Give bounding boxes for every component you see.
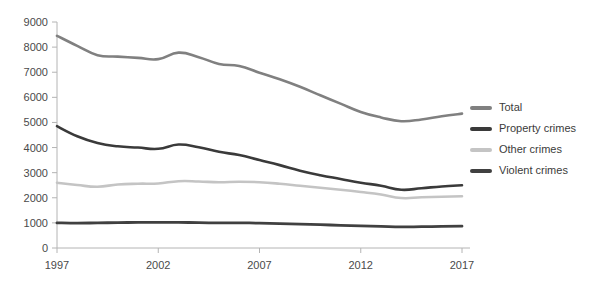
x-axis: 19972002200720122017 — [45, 248, 474, 271]
x-tick-label: 1997 — [45, 259, 69, 271]
legend-swatch-icon — [470, 106, 492, 110]
legend-swatch-icon — [470, 127, 492, 131]
y-tick-label: 6000 — [24, 91, 48, 103]
legend-swatch-icon — [470, 148, 492, 152]
legend-item-label: Property crimes — [499, 123, 576, 134]
legend-swatch-icon — [470, 169, 492, 173]
y-tick-label: 8000 — [24, 41, 48, 53]
x-tick-label: 2007 — [247, 259, 271, 271]
y-tick-label: 0 — [42, 242, 48, 254]
legend-item-other-crimes[interactable]: Other crimes — [470, 139, 596, 160]
legend-item-total[interactable]: Total — [470, 97, 596, 118]
legend-item-label: Other crimes — [499, 144, 562, 155]
y-tick-label: 2000 — [24, 192, 48, 204]
chart-legend: TotalProperty crimesOther crimesViolent … — [470, 97, 596, 181]
x-tick-label: 2012 — [349, 259, 373, 271]
x-tick-label: 2017 — [450, 259, 474, 271]
y-tick-label: 4000 — [24, 142, 48, 154]
y-axis: 0100020003000400050006000700080009000 — [24, 16, 57, 254]
legend-item-violent-crimes[interactable]: Violent crimes — [470, 160, 596, 181]
series-line-property-crimes — [57, 126, 462, 190]
legend-item-label: Violent crimes — [499, 165, 568, 176]
y-tick-label: 5000 — [24, 116, 48, 128]
x-tick-label: 2002 — [146, 259, 170, 271]
y-tick-label: 9000 — [24, 16, 48, 28]
y-tick-label: 3000 — [24, 167, 48, 179]
legend-item-property-crimes[interactable]: Property crimes — [470, 118, 596, 139]
y-tick-label: 1000 — [24, 217, 48, 229]
series-line-total — [57, 36, 462, 121]
series-lines — [57, 36, 462, 227]
line-chart: 0100020003000400050006000700080009000 19… — [0, 0, 596, 288]
legend-item-label: Total — [499, 102, 522, 113]
series-line-violent-crimes — [57, 222, 462, 227]
y-tick-label: 7000 — [24, 66, 48, 78]
